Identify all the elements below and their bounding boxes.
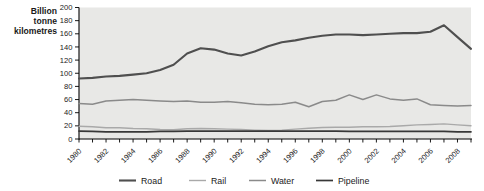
x-axis-tick-label: 2008 bbox=[444, 147, 462, 165]
y-axis-tick-label: 80 bbox=[64, 82, 72, 91]
x-axis-tick-label: 1984 bbox=[119, 147, 137, 165]
y-axis-tick-label: 60 bbox=[64, 95, 72, 104]
y-axis-tick-label: 180 bbox=[60, 16, 73, 25]
x-axis-tick-label: 1986 bbox=[146, 147, 164, 165]
y-axis-title-line: kilometres bbox=[14, 26, 57, 36]
chart-canvas: 0204060801001201401601802001980198219841… bbox=[0, 0, 484, 191]
x-axis-tick-label: 1980 bbox=[65, 147, 83, 165]
x-axis-tick-label: 2000 bbox=[335, 147, 353, 165]
x-axis-tick-label: 1988 bbox=[173, 147, 191, 165]
y-axis-tick-label: 160 bbox=[60, 29, 73, 38]
x-axis-tick-label: 2004 bbox=[390, 147, 408, 165]
y-axis-tick-label: 100 bbox=[60, 69, 73, 78]
x-axis-tick-label: 1996 bbox=[281, 147, 299, 165]
y-axis-tick-label: 20 bbox=[64, 121, 72, 130]
legend-label-water: Water bbox=[271, 176, 294, 186]
y-axis-tick-label: 140 bbox=[60, 43, 73, 52]
legend-label-road: Road bbox=[141, 176, 162, 186]
freight-mode-line-chart: 0204060801001201401601802001980198219841… bbox=[0, 0, 484, 191]
x-axis-tick-label: 2002 bbox=[362, 147, 380, 165]
x-axis-tick-label: 1998 bbox=[308, 147, 326, 165]
y-axis-title-line: Billion bbox=[31, 6, 57, 16]
x-axis-tick-label: 1992 bbox=[227, 147, 245, 165]
y-axis-tick-label: 200 bbox=[60, 3, 73, 12]
y-axis-tick-label: 40 bbox=[64, 108, 72, 117]
legend-label-pipeline: Pipeline bbox=[338, 176, 369, 186]
chart-line-pipeline bbox=[79, 131, 471, 132]
x-axis-tick-label: 1990 bbox=[200, 147, 218, 165]
x-axis-tick-label: 1994 bbox=[254, 147, 272, 165]
y-axis-tick-label: 0 bbox=[68, 135, 72, 144]
y-axis-tick-label: 120 bbox=[60, 56, 73, 65]
x-axis-tick-label: 2006 bbox=[417, 147, 435, 165]
x-axis-tick-label: 1982 bbox=[92, 147, 110, 165]
legend-label-rail: Rail bbox=[211, 176, 226, 186]
y-axis-title-line: tonne bbox=[34, 16, 58, 26]
